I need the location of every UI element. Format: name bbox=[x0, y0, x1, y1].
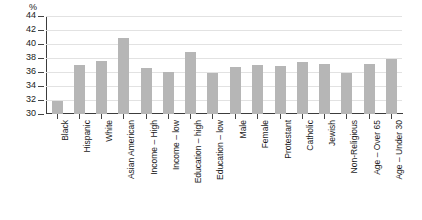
bar-slot bbox=[335, 16, 357, 114]
x-tick-slot bbox=[135, 114, 157, 119]
x-tick-group-religion bbox=[269, 114, 357, 119]
bar-group-gender bbox=[224, 16, 268, 114]
bar-slot bbox=[157, 16, 179, 114]
x-label-group-race: BlackHispanicWhiteAsian American bbox=[46, 120, 134, 218]
y-axis-tick-label: 34 bbox=[26, 80, 36, 91]
x-tick-slot bbox=[68, 114, 90, 119]
x-label-slot: Age – Over 65 bbox=[358, 120, 380, 218]
x-tick-slot bbox=[269, 114, 291, 119]
x-tick-slot bbox=[179, 114, 201, 119]
y-axis-tick-label: 36 bbox=[26, 66, 36, 77]
x-tick-slot bbox=[157, 114, 179, 119]
x-axis-tick-mark bbox=[190, 114, 191, 119]
x-label-slot: Catholic bbox=[291, 120, 313, 218]
bar-slot bbox=[224, 16, 246, 114]
x-axis-tick-mark bbox=[57, 114, 58, 119]
y-axis: 4442403836343230 bbox=[0, 16, 46, 114]
x-axis-tick-mark bbox=[302, 114, 303, 119]
bar[interactable] bbox=[74, 65, 85, 114]
x-axis-tick-mark bbox=[235, 114, 236, 119]
bar[interactable] bbox=[52, 101, 63, 114]
x-label-slot: Jewish bbox=[313, 120, 335, 218]
x-axis-tick-mark bbox=[212, 114, 213, 119]
y-axis-tick-mark bbox=[38, 72, 44, 73]
x-label-slot: Education – high bbox=[179, 120, 201, 218]
x-label-slot: Male bbox=[224, 120, 246, 218]
bar-slot bbox=[246, 16, 268, 114]
x-label-group-religion: ProtestantCatholicJewishNon-Religious bbox=[269, 120, 357, 218]
bar[interactable] bbox=[207, 73, 218, 114]
bar-slot bbox=[201, 16, 223, 114]
bar-slot bbox=[179, 16, 201, 114]
x-label-slot: Income – High bbox=[135, 120, 157, 218]
bar[interactable] bbox=[118, 38, 129, 114]
y-axis-tick-label: 44 bbox=[26, 10, 36, 21]
x-label-slot: Income – low bbox=[157, 120, 179, 218]
x-tick-slot bbox=[112, 114, 134, 119]
x-tick-slot bbox=[380, 114, 402, 119]
bar[interactable] bbox=[141, 68, 152, 114]
x-tick-slot bbox=[224, 114, 246, 119]
x-tick-group-income-education bbox=[135, 114, 223, 119]
x-axis-tick-mark bbox=[101, 114, 102, 119]
y-axis-tick-mark bbox=[38, 44, 44, 45]
bar-group-income-education bbox=[135, 16, 223, 114]
y-axis-tick-mark bbox=[38, 16, 44, 17]
y-axis-tick-mark bbox=[38, 30, 44, 31]
bar[interactable] bbox=[297, 62, 308, 115]
x-axis-tick-mark bbox=[123, 114, 124, 119]
y-axis-tick-mark bbox=[38, 58, 44, 59]
bar-slot bbox=[68, 16, 90, 114]
x-tick-slot bbox=[46, 114, 68, 119]
x-axis-tick-mark bbox=[324, 114, 325, 119]
bar[interactable] bbox=[185, 52, 196, 114]
y-axis-tick-mark bbox=[38, 114, 44, 115]
bar-slot bbox=[90, 16, 112, 114]
x-axis-tick-mark bbox=[146, 114, 147, 119]
bar-chart: % 4442403836343230 BlackHispanicWhiteAsi… bbox=[0, 0, 422, 220]
x-label-slot: Non-Religious bbox=[335, 120, 357, 218]
x-label-slot: Female bbox=[246, 120, 268, 218]
x-axis-labels: BlackHispanicWhiteAsian AmericanIncome –… bbox=[46, 120, 402, 218]
x-tick-slot bbox=[335, 114, 357, 119]
x-axis-tick-mark bbox=[346, 114, 347, 119]
x-label-group-age: Age – Over 65Age – Under 30 bbox=[358, 120, 402, 218]
y-axis-tick-mark bbox=[38, 100, 44, 101]
x-tick-slot bbox=[90, 114, 112, 119]
bar[interactable] bbox=[252, 65, 263, 114]
x-label-slot: White bbox=[90, 120, 112, 218]
bar-slot bbox=[269, 16, 291, 114]
bar[interactable] bbox=[96, 61, 107, 114]
x-axis-tick-mark bbox=[168, 114, 169, 119]
y-axis-tick-mark bbox=[38, 86, 44, 87]
y-axis-tick-label: 40 bbox=[26, 38, 36, 49]
bar-slot bbox=[380, 16, 402, 114]
bar[interactable] bbox=[275, 66, 286, 114]
bar-slot bbox=[46, 16, 68, 114]
y-axis-tick-label: 38 bbox=[26, 52, 36, 63]
plot-area bbox=[46, 16, 402, 114]
bar-slot bbox=[135, 16, 157, 114]
bar[interactable] bbox=[364, 64, 375, 114]
bar-slot bbox=[291, 16, 313, 114]
x-tick-group-gender bbox=[224, 114, 268, 119]
bar[interactable] bbox=[319, 64, 330, 114]
bar[interactable] bbox=[230, 67, 241, 114]
x-tick-slot bbox=[313, 114, 335, 119]
bar-group-age bbox=[358, 16, 402, 114]
x-label-slot: Hispanic bbox=[68, 120, 90, 218]
bar[interactable] bbox=[163, 72, 174, 114]
bar[interactable] bbox=[341, 73, 352, 114]
x-axis-tick-mark bbox=[391, 114, 392, 119]
y-axis-tick-label: 30 bbox=[26, 108, 36, 119]
bar[interactable] bbox=[386, 59, 397, 114]
x-label-slot: Protestant bbox=[269, 120, 291, 218]
y-axis-tick-label: 32 bbox=[26, 94, 36, 105]
x-label-slot: Black bbox=[46, 120, 68, 218]
x-tick-slot bbox=[291, 114, 313, 119]
x-label-slot: Age – Under 30 bbox=[380, 120, 402, 218]
x-tick-group-age bbox=[358, 114, 402, 119]
bar-group-religion bbox=[269, 16, 357, 114]
x-axis-tick-mark bbox=[257, 114, 258, 119]
x-label-group-income-education: Income – HighIncome – lowEducation – hig… bbox=[135, 120, 223, 218]
